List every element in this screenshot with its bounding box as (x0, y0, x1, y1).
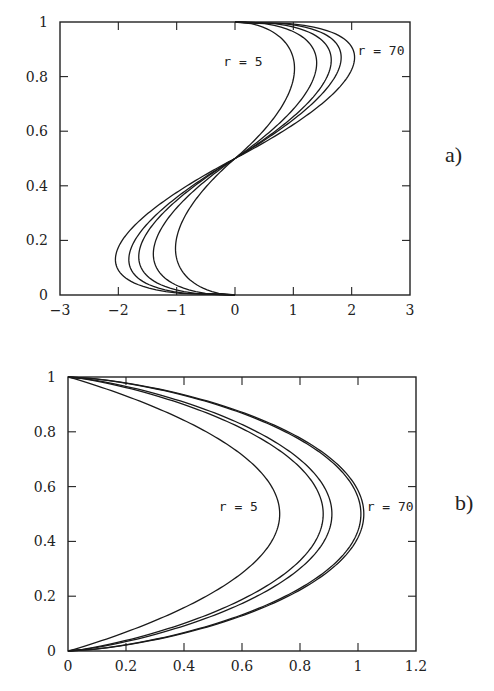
y-tick-label: 0.2 (26, 232, 48, 248)
x-tick-label: 0.2 (115, 658, 137, 674)
y-tick-label: 0.6 (34, 479, 56, 495)
x-tick-label: 0 (64, 658, 73, 674)
curve-annotation: r = 70 (358, 43, 405, 58)
x-tick-label: 1 (354, 658, 363, 674)
x-tick-label: −2 (108, 302, 129, 318)
y-tick-label: 0.4 (34, 533, 56, 549)
y-tick-label: 1 (47, 369, 56, 385)
curve-annotation: r = 5 (223, 54, 262, 69)
x-tick-label: 1.2 (405, 658, 427, 674)
x-tick-label: 1 (289, 302, 298, 318)
chart-a: −3−2−1012300.20.40.60.81r = 5r = 70a) (0, 0, 494, 330)
y-tick-label: 0 (39, 287, 48, 303)
panel-label: b) (455, 490, 473, 515)
chart-b: 00.20.40.60.811.200.20.40.60.81r = 5r = … (0, 330, 494, 691)
panel-label: a) (445, 142, 462, 167)
chart-b-plot: 00.20.40.60.811.200.20.40.60.81r = 5r = … (0, 330, 494, 691)
y-tick-label: 0.8 (26, 69, 48, 85)
x-tick-label: 2 (347, 302, 356, 318)
y-tick-label: 0.2 (34, 588, 56, 604)
x-tick-label: −3 (50, 302, 71, 318)
x-tick-label: 0.8 (289, 658, 311, 674)
y-tick-label: 0.4 (26, 178, 48, 194)
curve-2 (68, 377, 323, 651)
y-tick-label: 1 (39, 14, 48, 30)
curve-5 (68, 377, 364, 651)
y-tick-label: 0.8 (34, 424, 56, 440)
x-tick-label: −1 (166, 302, 187, 318)
chart-a-plot: −3−2−1012300.20.40.60.81r = 5r = 70a) (0, 0, 494, 330)
curve-3 (68, 377, 332, 651)
curve-annotation: r = 70 (367, 499, 414, 514)
x-tick-label: 0 (231, 302, 240, 318)
y-tick-label: 0 (47, 643, 56, 659)
curve-annotation: r = 5 (219, 499, 258, 514)
y-tick-label: 0.6 (26, 123, 48, 139)
x-tick-label: 3 (406, 302, 415, 318)
x-tick-label: 0.4 (173, 658, 195, 674)
x-tick-label: 0.6 (231, 658, 253, 674)
curve-4 (68, 377, 361, 651)
